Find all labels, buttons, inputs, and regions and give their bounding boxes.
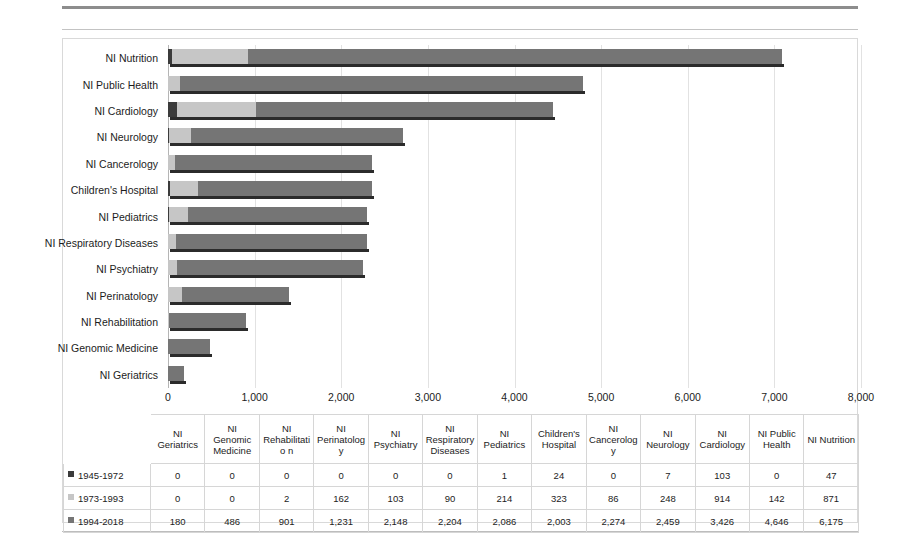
gridline-4000: [515, 45, 516, 388]
table-column-header: NI Respiratory Diseases: [423, 415, 477, 464]
stacked-bar[interactable]: [168, 102, 553, 117]
value-tick-label: 5,000: [588, 391, 614, 403]
table-row: 1945-197200000012407103047: [64, 464, 859, 487]
gridline-6000: [688, 45, 689, 388]
stacked-bar[interactable]: [168, 234, 367, 249]
table-column-header: NI Perinatology: [314, 415, 368, 464]
bar-segment-1994-2018[interactable]: [182, 287, 289, 302]
bar-segment-1994-2018[interactable]: [175, 155, 372, 170]
bar-segment-1994-2018[interactable]: [256, 102, 553, 117]
bar-segment-1994-2018[interactable]: [176, 234, 367, 249]
table-header: NI GeriatricsNI Genomic MedicineNI Rehab…: [64, 415, 859, 464]
table-corner-cell: [64, 415, 151, 464]
figure-container: NI NutritionNI Public HealthNI Cardiolog…: [62, 38, 858, 523]
stacked-bar[interactable]: [168, 76, 583, 91]
legend-series-label: 1973-1993: [78, 493, 123, 504]
table-column-header: NI Public Health: [749, 415, 803, 464]
bar-segment-1973-1993[interactable]: [169, 207, 187, 222]
category-label: NI Public Health: [83, 78, 158, 92]
table-cell: 1,231: [314, 510, 368, 533]
bar-segment-1945-1972[interactable]: [168, 102, 177, 117]
legend-row-header: 1973-1993: [64, 487, 151, 510]
table-cell: 162: [314, 487, 368, 510]
category-label: NI Cardiology: [94, 104, 158, 118]
table-cell: 323: [532, 487, 586, 510]
table-cell: 180: [151, 510, 205, 533]
bar-segment-1994-2018[interactable]: [168, 366, 184, 381]
bar-segment-1973-1993[interactable]: [168, 287, 182, 302]
category-label: NI Neurology: [97, 130, 158, 144]
legend-swatch-icon: [68, 494, 74, 500]
bar-segment-1994-2018[interactable]: [188, 207, 368, 222]
table-cell: 0: [259, 464, 313, 487]
legend-swatch-icon: [68, 471, 74, 477]
table-cell: 2,003: [532, 510, 586, 533]
table-cell: 0: [205, 464, 259, 487]
bar-segment-1994-2018[interactable]: [168, 339, 210, 354]
table-cell: 0: [749, 464, 803, 487]
table-column-header: NI Cancerology: [586, 415, 640, 464]
table-cell: 86: [586, 487, 640, 510]
table-header-row: NI GeriatricsNI Genomic MedicineNI Rehab…: [64, 415, 859, 464]
category-label: NI Nutrition: [105, 51, 158, 65]
category-label: NI Rehabilitation: [81, 315, 158, 329]
bar-segment-1994-2018[interactable]: [191, 128, 403, 143]
stacked-bar[interactable]: [168, 207, 367, 222]
bar-segment-1973-1993[interactable]: [170, 181, 198, 196]
stacked-bar[interactable]: [168, 287, 289, 302]
gridline-5000: [601, 45, 602, 388]
table-cell: 486: [205, 510, 259, 533]
table-cell: 2: [259, 487, 313, 510]
table-cell: 7: [641, 464, 695, 487]
stacked-bar[interactable]: [168, 128, 403, 143]
table-cell: 6,175: [804, 510, 859, 533]
bar-segment-1973-1993[interactable]: [169, 128, 190, 143]
bar-segment-1994-2018[interactable]: [198, 181, 372, 196]
stacked-bar-chart: NI NutritionNI Public HealthNI Cardiolog…: [63, 39, 859, 414]
stacked-bar[interactable]: [168, 366, 184, 381]
table-column-header: NI Pediatrics: [477, 415, 531, 464]
value-tick-label: 3,000: [415, 391, 441, 403]
table-body: 1945-1972000000124071030471973-199300216…: [64, 464, 859, 533]
bar-segment-1994-2018[interactable]: [177, 260, 363, 275]
category-label: NI Pediatrics: [98, 210, 158, 224]
table-column-header: NI Genomic Medicine: [205, 415, 259, 464]
bar-segment-1973-1993[interactable]: [168, 155, 175, 170]
stacked-bar[interactable]: [168, 181, 372, 196]
gridline-3000: [428, 45, 429, 388]
bar-segment-1994-2018[interactable]: [248, 49, 783, 64]
stacked-bar[interactable]: [168, 260, 363, 275]
table-cell: 0: [205, 487, 259, 510]
value-tick-label: 8,000: [848, 391, 874, 403]
bar-segment-1973-1993[interactable]: [168, 234, 176, 249]
table-cell: 2,086: [477, 510, 531, 533]
bar-segment-1973-1993[interactable]: [172, 49, 247, 64]
category-label: NI Geriatrics: [100, 368, 158, 382]
table-cell: 901: [259, 510, 313, 533]
stacked-bar[interactable]: [168, 339, 210, 354]
bar-segment-1973-1993[interactable]: [168, 260, 177, 275]
stacked-bar[interactable]: [168, 313, 246, 328]
bar-segment-1994-2018[interactable]: [180, 76, 582, 91]
table-row: 1994-20181804869011,2312,1482,2042,0862,…: [64, 510, 859, 533]
bar-segment-1994-2018[interactable]: [169, 313, 246, 328]
category-axis-labels: NI NutritionNI Public HealthNI Cardiolog…: [63, 45, 164, 388]
table-cell: 871: [804, 487, 859, 510]
data-table: NI GeriatricsNI Genomic MedicineNI Rehab…: [63, 414, 859, 533]
table-cell: 24: [532, 464, 586, 487]
bar-segment-1973-1993[interactable]: [168, 76, 180, 91]
legend-row-header: 1994-2018: [64, 510, 151, 533]
table-cell: 2,204: [423, 510, 477, 533]
category-label: NI Perinatology: [86, 289, 158, 303]
stacked-bar[interactable]: [168, 49, 782, 64]
table-column-header: NI Nutrition: [804, 415, 859, 464]
table-cell: 4,646: [749, 510, 803, 533]
table-cell: 0: [151, 487, 205, 510]
table-cell: 103: [368, 487, 422, 510]
stacked-bar[interactable]: [168, 155, 372, 170]
table-cell: 103: [695, 464, 749, 487]
bar-segment-1973-1993[interactable]: [177, 102, 256, 117]
category-label: NI Respiratory Diseases: [45, 236, 158, 250]
value-tick-label: 6,000: [675, 391, 701, 403]
page-rule-top: [62, 6, 858, 9]
